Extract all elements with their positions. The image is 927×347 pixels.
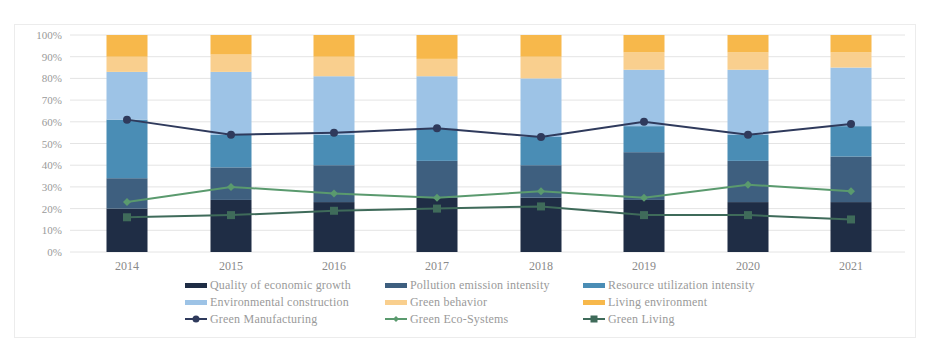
data-point [433, 205, 441, 213]
data-point [640, 118, 648, 126]
bar-2018 [521, 35, 562, 252]
legend-swatch [385, 283, 407, 288]
data-point [330, 207, 338, 215]
circle-marker-icon [185, 314, 207, 324]
legend-row-1: Quality of economic growth Pollution emi… [185, 277, 785, 293]
x-tick-label: 2021 [839, 259, 863, 273]
x-axis-ticks: 20142015201620172018201920202021 [115, 259, 863, 273]
x-tick-label: 2019 [632, 259, 656, 273]
bar-segment [728, 70, 769, 135]
bar-segment [624, 200, 665, 252]
bar-segment [831, 126, 872, 156]
bar-2019 [624, 35, 665, 252]
data-point [744, 211, 752, 219]
x-tick-label: 2015 [219, 259, 243, 273]
data-point [744, 131, 752, 139]
bar-segment [831, 157, 872, 203]
bar-segment [211, 55, 252, 72]
data-point [330, 129, 338, 137]
x-tick-label: 2017 [425, 259, 449, 273]
bar-segment [314, 135, 355, 165]
data-point [537, 133, 545, 141]
legend-swatch [583, 300, 605, 305]
bar-segment [107, 35, 148, 57]
legend-item-pollution-emission-intensity: Pollution emission intensity [385, 277, 550, 293]
y-tick-label: 70% [42, 94, 62, 106]
bar-segment [728, 35, 769, 52]
bar-segment [417, 128, 458, 161]
legend-item-green-manufacturing: Green Manufacturing [185, 311, 317, 327]
legend-item-green-living: Green Living [583, 311, 675, 327]
bar-segment [624, 126, 665, 152]
data-point [227, 131, 235, 139]
data-point [537, 202, 545, 210]
y-tick-label: 50% [42, 138, 62, 150]
bar-segment [107, 120, 148, 179]
bar-segment [624, 70, 665, 126]
legend-swatch [185, 300, 207, 305]
bar-segment [624, 35, 665, 52]
data-point [123, 116, 131, 124]
gridlines [70, 35, 905, 252]
bar-2017 [417, 35, 458, 252]
legend-item-environmental-construction: Environmental construction [185, 294, 349, 310]
y-tick-label: 40% [42, 159, 62, 171]
legend-label: Resource utilization intensity [608, 278, 755, 293]
legend-item-green-eco-systems: Green Eco-Systems [385, 311, 508, 327]
legend-label: Green Eco-Systems [410, 312, 508, 327]
bar-segment [521, 78, 562, 137]
bar-segment [314, 35, 355, 57]
bar-segment [107, 57, 148, 72]
x-tick-label: 2016 [322, 259, 346, 273]
bar-segment [728, 52, 769, 69]
bar-segment [417, 161, 458, 198]
data-point [227, 211, 235, 219]
bar-segment [211, 200, 252, 252]
y-tick-label: 80% [42, 72, 62, 84]
bar-segment [521, 35, 562, 57]
data-point [640, 211, 648, 219]
bar-2020 [728, 35, 769, 252]
bar-segment [831, 202, 872, 252]
legend-swatch [185, 283, 207, 288]
bar-segment [417, 76, 458, 128]
legend-item-resource-utilization-intensity: Resource utilization intensity [583, 277, 755, 293]
bar-segment [831, 68, 872, 127]
bar-segment [521, 137, 562, 165]
legend-label: Green Living [608, 312, 675, 327]
legend-swatch [583, 283, 605, 288]
data-point [847, 120, 855, 128]
square-marker-icon [583, 314, 605, 324]
bar-segment [211, 72, 252, 135]
legend-item-living-environment: Living environment [583, 294, 707, 310]
y-tick-label: 90% [42, 51, 62, 63]
bar-segment [107, 72, 148, 120]
legend-label: Pollution emission intensity [410, 278, 550, 293]
y-tick-label: 0% [47, 246, 62, 258]
legend-label: Green Manufacturing [210, 312, 317, 327]
data-point [123, 213, 131, 221]
data-point [847, 215, 855, 223]
bar-segment [728, 202, 769, 252]
y-tick-label: 60% [42, 116, 62, 128]
x-tick-label: 2018 [529, 259, 553, 273]
bar-segment [211, 135, 252, 168]
legend-item-green-behavior: Green behavior [385, 294, 487, 310]
bar-segment [314, 76, 355, 135]
y-tick-label: 20% [42, 203, 62, 215]
bar-segment [417, 59, 458, 76]
x-tick-label: 2014 [115, 259, 139, 273]
bar-segment [417, 35, 458, 59]
y-tick-label: 100% [36, 29, 62, 41]
x-tick-label: 2020 [736, 259, 760, 273]
y-tick-label: 10% [42, 224, 62, 236]
bar-segment [211, 35, 252, 55]
legend-row-2: Environmental construction Green behavio… [185, 294, 785, 310]
y-axis-ticks: 0%10%20%30%40%50%60%70%80%90%100% [36, 29, 62, 258]
legend-row-3: Green Manufacturing Green Eco-Systems Gr… [185, 311, 785, 327]
legend-label: Quality of economic growth [210, 278, 351, 293]
legend-label: Environmental construction [210, 295, 349, 310]
legend-label: Green behavior [410, 295, 487, 310]
legend-label: Living environment [608, 295, 707, 310]
bar-2016 [314, 35, 355, 252]
